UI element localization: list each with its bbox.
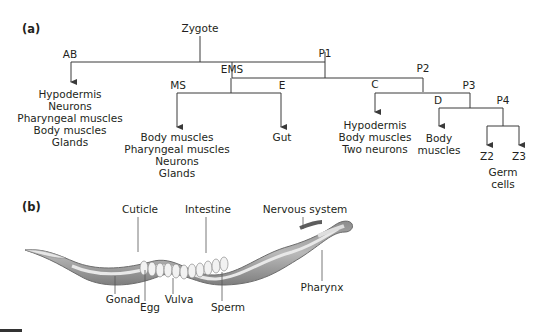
worm-anatomy: (b) Cuticle Intestine Nervous sy — [22, 200, 353, 313]
svg-text:muscles: muscles — [418, 144, 461, 156]
label-intestine: Intestine — [185, 203, 231, 215]
e-fate-gut: Gut — [273, 131, 292, 143]
zygote-label: Zygote — [181, 22, 218, 34]
p1-label: P1 — [318, 47, 331, 59]
svg-text:Pharyngeal muscles: Pharyngeal muscles — [17, 112, 122, 124]
ab-fates: Hypodermis Neurons Pharyngeal muscles Bo… — [17, 88, 122, 148]
p3-split — [439, 108, 503, 126]
c-fates: Hypodermis Body muscles Two neurons — [339, 119, 412, 155]
svg-text:Two neurons: Two neurons — [341, 143, 407, 155]
label-pharynx: Pharynx — [301, 281, 344, 293]
p2-split — [375, 93, 470, 108]
svg-text:Germ: Germ — [489, 166, 518, 178]
p3-label: P3 — [462, 79, 475, 91]
label-gonad: Gonad — [106, 293, 140, 305]
label-sperm: Sperm — [211, 301, 245, 313]
label-nervous-system: Nervous system — [263, 203, 348, 215]
c-label: C — [371, 78, 378, 90]
svg-text:Neurons: Neurons — [155, 155, 199, 167]
d-fates: Body muscles — [418, 132, 461, 156]
svg-text:Pharyngeal muscles: Pharyngeal muscles — [124, 143, 229, 155]
label-vulva: Vulva — [165, 293, 194, 305]
lineage-tree: (a) Zygote AB P1 Hypodermis Neurons Phar… — [17, 22, 526, 190]
p2-label: P2 — [416, 62, 429, 74]
ab-label: AB — [63, 48, 77, 60]
e-label: E — [279, 79, 286, 91]
svg-text:Body: Body — [426, 132, 453, 144]
svg-text:Glands: Glands — [52, 136, 88, 148]
svg-text:Neurons: Neurons — [48, 100, 92, 112]
p4-label: P4 — [496, 94, 509, 106]
svg-text:cells: cells — [491, 178, 515, 190]
d-label: D — [434, 94, 442, 106]
panel-a-label: (a) — [22, 22, 40, 36]
z3-label: Z3 — [512, 150, 526, 162]
zygote-split — [71, 52, 325, 62]
svg-text:Hypodermis: Hypodermis — [343, 119, 406, 131]
p1-split — [232, 62, 423, 92]
ms-fates: Body muscles Pharyngeal muscles Neurons … — [124, 131, 229, 179]
z2-label: Z2 — [480, 150, 494, 162]
label-cuticle: Cuticle — [122, 203, 158, 215]
svg-text:Hypodermis: Hypodermis — [38, 88, 101, 100]
label-egg: Egg — [140, 301, 160, 313]
svg-text:Glands: Glands — [159, 167, 195, 179]
ms-label: MS — [170, 79, 186, 91]
panel-b-label: (b) — [22, 200, 41, 214]
svg-text:Body muscles: Body muscles — [141, 131, 214, 143]
svg-text:Body muscles: Body muscles — [34, 124, 107, 136]
germ-cells-label: Germ cells — [489, 166, 518, 190]
cell-lineage-figure: (a) Zygote AB P1 Hypodermis Neurons Phar… — [0, 0, 548, 332]
svg-text:Body muscles: Body muscles — [339, 131, 412, 143]
ems-label: EMS — [221, 63, 244, 75]
